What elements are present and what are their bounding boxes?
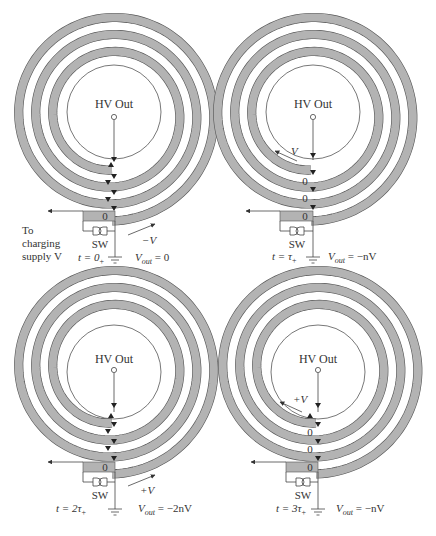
panel-t-2tau: HV Out 0 SW +V t = 2τ+ xyxy=(19,271,214,518)
wave-voltage-label: V xyxy=(291,145,299,157)
hv-out-terminal xyxy=(315,367,320,372)
panel-t-3tau: HV Out 0 0 +V 0 SW t = 3τ+ V xyxy=(223,271,418,518)
panel-t0: HV Out 0 SW −V To xyxy=(19,18,214,267)
wave-voltage-label: −V xyxy=(142,234,157,246)
time-label: t = 3τ+ xyxy=(276,502,306,517)
hv-out-terminal xyxy=(111,114,116,119)
vout-label: Vout = 0 xyxy=(135,251,170,266)
hv-out-label: HV Out xyxy=(299,352,338,366)
wave-voltage-label: +V xyxy=(140,484,155,496)
time-label: t = 0+ xyxy=(78,251,104,266)
switch-label: SW xyxy=(289,238,306,250)
spiral-generator-diagram: HV Out 0 SW −V To xyxy=(0,0,436,536)
junction-label: 0 xyxy=(307,461,313,473)
junction-label: 0 xyxy=(302,210,308,222)
junction-label: 0 xyxy=(102,210,108,222)
hv-out-label: HV Out xyxy=(95,97,134,111)
ground-icon xyxy=(306,257,320,263)
hv-out-terminal xyxy=(310,114,315,119)
spiral-strip xyxy=(223,271,418,475)
svg-text:supply V: supply V xyxy=(22,250,62,262)
spiral-strip xyxy=(218,18,413,222)
wave-voltage-label: +V xyxy=(293,393,308,405)
spark-gap-switch xyxy=(286,472,318,486)
time-label: t = τ+ xyxy=(272,250,297,265)
switch-label: SW xyxy=(295,489,312,501)
spark-gap-switch xyxy=(280,221,313,235)
spark-gap-switch xyxy=(83,472,115,486)
switch-section-strip xyxy=(280,211,313,221)
hv-out-terminal xyxy=(111,367,116,372)
spark-gap-switch xyxy=(83,221,115,235)
ground-icon xyxy=(108,509,122,515)
hv-out-label: HV Out xyxy=(95,352,134,366)
supply-label: To charging supply V xyxy=(22,224,62,262)
switch-section-strip xyxy=(286,462,318,472)
vout-label: Vout = −nV xyxy=(328,250,376,265)
switch-section-strip xyxy=(83,211,115,221)
svg-text:To: To xyxy=(22,224,34,236)
hv-out-label: HV Out xyxy=(294,97,333,111)
junction-label: 0 xyxy=(302,175,308,187)
junction-label: 0 xyxy=(307,443,313,455)
switch-section-strip xyxy=(83,462,115,472)
ground-icon xyxy=(311,509,325,515)
spiral-strip xyxy=(19,271,214,475)
junction-label: 0 xyxy=(302,192,308,204)
junction-label: 0 xyxy=(307,426,313,438)
vout-label: Vout = −2nV xyxy=(138,502,192,517)
svg-text:charging: charging xyxy=(22,237,61,249)
junction-label: 0 xyxy=(102,461,108,473)
vout-label: Vout = −nV xyxy=(336,502,384,517)
switch-label: SW xyxy=(92,238,109,250)
time-label: t = 2τ+ xyxy=(56,502,86,517)
switch-label: SW xyxy=(92,489,109,501)
ground-icon xyxy=(108,257,122,263)
panel-t-tau: HV Out 0 0 V 0 SW t = τ+ Vout = −nV xyxy=(218,18,413,266)
